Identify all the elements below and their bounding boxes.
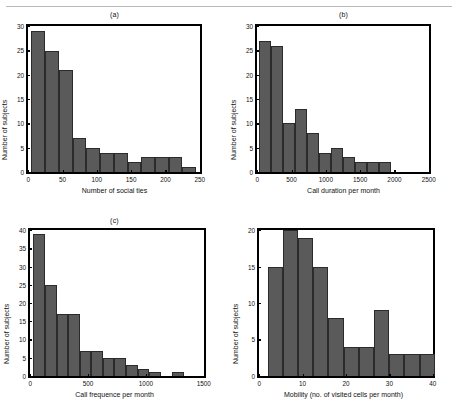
panel-c-bars: [30, 230, 204, 376]
panel-a-ytick-label: 15: [9, 96, 24, 103]
panel-a-ytick: [26, 148, 30, 149]
panel-d-bars: [259, 230, 433, 376]
panel-b-ytick: [255, 50, 259, 51]
panel-b-ytick-label: 25: [238, 47, 253, 54]
panel-c-ytick-label: 10: [11, 336, 26, 343]
panel-d-xtick-label: 0: [257, 380, 261, 387]
histogram-bar: [319, 153, 331, 172]
histogram-bar: [389, 354, 404, 376]
histogram-bar: [149, 372, 161, 376]
panel-c-ytick: [28, 358, 32, 359]
panel-a-xtick: [165, 170, 166, 174]
panel-c-title: (c): [0, 217, 229, 224]
panel-c-ytick: [28, 248, 32, 249]
panel-d-xtick-label: 30: [386, 380, 393, 387]
panel-d-ytick: [257, 303, 261, 304]
histogram-bar: [45, 285, 57, 376]
histogram-bar: [328, 318, 343, 376]
panel-b: (b)05001000150020002500051015202530Call …: [229, 0, 458, 206]
panel-b-ytick-label: 20: [238, 71, 253, 78]
panel-b-ytick-label: 0: [238, 168, 253, 175]
histogram-bar: [307, 133, 319, 172]
panel-d-ytick: [257, 376, 261, 377]
panel-b-xtick: [360, 170, 361, 174]
histogram-bar: [379, 162, 391, 172]
histogram-bar: [100, 153, 114, 172]
panel-b-xtick: [429, 170, 430, 174]
panel-d-yaxis-title: Number of subjects: [232, 304, 239, 364]
panel-a-ytick: [26, 26, 30, 27]
panel-d-xtick-label: 10: [299, 380, 306, 387]
histogram-bar: [91, 351, 103, 376]
panel-b-ytick-label: 30: [238, 23, 253, 30]
panel-b-ytick: [255, 99, 259, 100]
panel-c-xtick: [88, 374, 89, 378]
panel-d-ytick-label: 20: [240, 227, 255, 234]
panel-c-ytick: [28, 230, 32, 231]
histogram-bar: [114, 358, 126, 376]
panel-a-ytick: [26, 50, 30, 51]
panel-a-ytick-label: 5: [9, 144, 24, 151]
panel-a-xtick: [97, 170, 98, 174]
panel-b-xtick: [326, 170, 327, 174]
panel-a-xtick-label: 200: [160, 176, 171, 183]
panel-c-ytick: [28, 267, 32, 268]
panel-b-ytick: [255, 26, 259, 27]
panel-a-xtick-label: 150: [126, 176, 137, 183]
panel-b-xtick: [394, 170, 395, 174]
panel-a: (a)050100150200250051015202530Number of …: [0, 0, 229, 206]
panel-d-xtick-label: 20: [342, 380, 349, 387]
histogram-bar: [138, 369, 150, 376]
panel-b-ytick-label: 15: [238, 96, 253, 103]
panel-c-xtick-label: 500: [83, 380, 94, 387]
panel-a-ytick-label: 20: [9, 71, 24, 78]
panel-a-xtick-label: 50: [59, 176, 66, 183]
histogram-bar: [374, 310, 389, 376]
histogram-bar: [420, 354, 435, 376]
panel-d-plot-area: [257, 228, 435, 378]
panel-c-ytick-label: 0: [11, 372, 26, 379]
histogram-bar: [141, 157, 155, 172]
histogram-bar: [359, 347, 374, 376]
panel-b-yaxis-title: Number of subjects: [230, 100, 237, 160]
panel-b-plot-area: [255, 24, 431, 174]
histogram-bar: [59, 70, 73, 172]
histogram-bar: [103, 358, 115, 376]
panel-b-ytick: [255, 123, 259, 124]
histogram-bar: [271, 46, 283, 172]
panel-b-ytick: [255, 148, 259, 149]
panel-a-ytick: [26, 172, 30, 173]
panel-d-ytick-label: 5: [240, 336, 255, 343]
histogram-bar: [73, 138, 87, 172]
histogram-bar: [343, 157, 355, 172]
histogram-bar: [182, 167, 196, 172]
panel-c-yaxis-title: Number of subjects: [3, 304, 10, 364]
panel-c-ytick: [28, 321, 32, 322]
panel-c-ytick-label: 25: [11, 281, 26, 288]
panel-c-ytick: [28, 303, 32, 304]
panel-a-xtick: [131, 170, 132, 174]
panel-d-ytick-label: 15: [240, 263, 255, 270]
panel-b-xtick-label: 0: [255, 176, 259, 183]
panel-a-bars: [28, 26, 200, 172]
panel-d-ytick: [257, 267, 261, 268]
histogram-bar: [126, 365, 138, 376]
histogram-bar: [169, 157, 183, 172]
panel-b-xtick-label: 500: [286, 176, 297, 183]
panel-c-xtick-label: 1000: [139, 380, 153, 387]
histogram-bar: [68, 314, 80, 376]
panel-d-xtick: [303, 374, 304, 378]
histogram-bar: [114, 153, 128, 172]
histogram-bar: [331, 148, 343, 172]
panel-c: (c)0500100015000510152025303540Call freq…: [0, 206, 229, 412]
panel-d-ytick: [257, 339, 261, 340]
panel-b-ytick-label: 10: [238, 120, 253, 127]
panel-b-title: (b): [229, 11, 458, 18]
figure-panel-grid: (a)050100150200250051015202530Number of …: [0, 0, 458, 412]
histogram-bar: [283, 230, 298, 376]
panel-c-xtick: [146, 374, 147, 378]
panel-a-xtick-label: 250: [194, 176, 205, 183]
histogram-bar: [367, 162, 379, 172]
panel-a-ytick: [26, 99, 30, 100]
panel-b-xtick-label: 1500: [353, 176, 367, 183]
